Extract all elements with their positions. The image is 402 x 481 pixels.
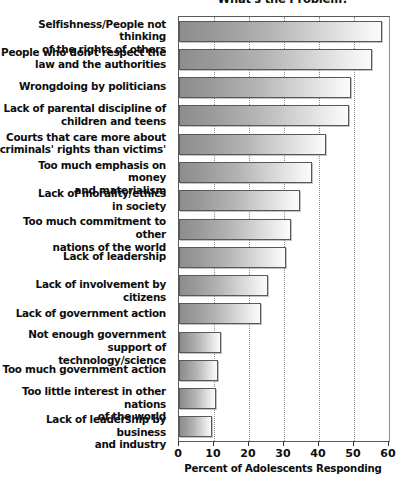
bar	[179, 134, 326, 155]
category-label: Lack of leadership	[0, 250, 166, 263]
category-label: People who don't respect thelaw and the …	[0, 46, 166, 71]
category-label-line: Lack of leadership by business	[0, 413, 166, 438]
x-tick-mark-40	[318, 441, 319, 446]
category-label-line: Too much emphasis on money	[0, 159, 166, 184]
x-tick-mark-0	[178, 441, 179, 446]
category-label: Too much government action	[0, 363, 166, 376]
x-tick-label: 30	[268, 447, 298, 460]
category-label: Courts that care more aboutcriminals' ri…	[0, 131, 166, 156]
bar	[179, 77, 351, 98]
category-label: Lack of leadership by businessand indust…	[0, 413, 166, 451]
x-tick-mark-50	[353, 441, 354, 446]
category-label-line: Lack of parental discipline of	[0, 102, 166, 115]
bar	[179, 332, 221, 353]
bar	[179, 190, 300, 211]
x-tick-mark-60	[388, 441, 389, 446]
category-label: Too much commitment to othernations of t…	[0, 215, 166, 253]
bar	[179, 49, 372, 70]
x-tick-label: 10	[198, 447, 228, 460]
x-tick-label: 20	[233, 447, 263, 460]
category-label-line: Too much commitment to other	[0, 215, 166, 240]
category-label-line: Not enough government	[0, 328, 166, 341]
gridline-50	[354, 17, 355, 441]
bar	[179, 416, 212, 437]
bar	[179, 247, 286, 268]
category-label: Lack of involvement by citizens	[0, 278, 166, 303]
bar	[179, 275, 268, 296]
category-label-line: Lack of morality/ethics	[0, 187, 166, 200]
chart-title: What's the Problem?	[178, 0, 388, 6]
x-tick-label: 40	[303, 447, 333, 460]
category-label-line: Courts that care more about	[0, 131, 166, 144]
bar	[179, 360, 218, 381]
category-label-line: and industry	[0, 438, 166, 451]
category-label: Not enough governmentsupport of technolo…	[0, 328, 166, 366]
bar-chart-figure: What's the Problem? Selfishness/People n…	[0, 0, 402, 481]
category-label: Lack of government action	[0, 307, 166, 320]
category-label-line: Wrongdoing by politicians	[0, 80, 166, 93]
bar	[179, 219, 291, 240]
category-label-line: Lack of government action	[0, 307, 166, 320]
x-tick-mark-10	[213, 441, 214, 446]
bar	[179, 105, 349, 126]
x-tick-label: 60	[373, 447, 402, 460]
category-label-line: Selfishness/People not thinking	[0, 18, 166, 43]
bar	[179, 303, 261, 324]
bar	[179, 162, 312, 183]
plot-area	[178, 16, 390, 442]
category-label: Lack of parental discipline ofchildren a…	[0, 102, 166, 127]
x-tick-label: 50	[338, 447, 368, 460]
category-label-line: Lack of involvement by citizens	[0, 278, 166, 303]
category-label-line: Too little interest in other nations	[0, 385, 166, 410]
gridline-60	[389, 17, 390, 441]
category-label-line: People who don't respect the	[0, 46, 166, 59]
x-axis-title: Percent of Adolescents Responding	[178, 463, 388, 474]
x-tick-mark-20	[248, 441, 249, 446]
category-label-line: in society	[0, 200, 166, 213]
category-label-line: Lack of leadership	[0, 250, 166, 263]
x-tick-label: 0	[163, 447, 193, 460]
category-label-line: criminals' rights than victims'	[0, 143, 166, 156]
bar	[179, 388, 216, 409]
category-label: Lack of morality/ethicsin society	[0, 187, 166, 212]
category-label-line: children and teens	[0, 115, 166, 128]
category-label-line: Too much government action	[0, 363, 166, 376]
bar	[179, 21, 382, 42]
category-label-line: law and the authorities	[0, 58, 166, 71]
x-tick-mark-30	[283, 441, 284, 446]
category-label: Wrongdoing by politicians	[0, 80, 166, 93]
category-label-column: Selfishness/People not thinkingof the ri…	[0, 16, 172, 440]
